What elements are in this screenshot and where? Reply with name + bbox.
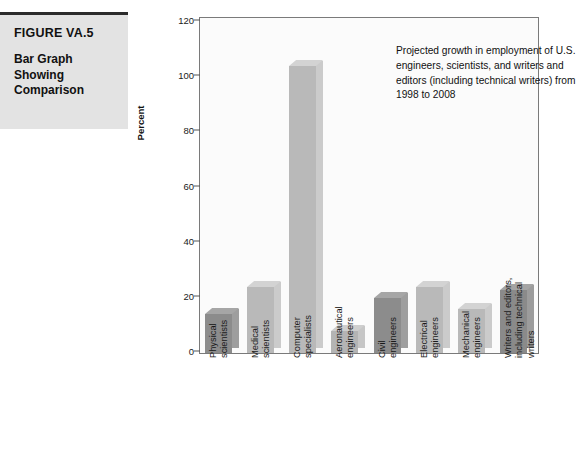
x-axis-labels: Physical scientistsMedical scientistsCom…	[199, 358, 539, 455]
bar-chart: Percent 020406080100120 Projected growth…	[133, 8, 553, 453]
bar-side-face	[401, 293, 408, 348]
bar-side-face	[316, 61, 323, 348]
x-axis-label: Civil engineers	[377, 317, 400, 358]
x-axis-label: Aeronautical engineers	[334, 306, 357, 358]
y-axis-title: Percent	[135, 88, 146, 158]
y-tick-label: 120	[178, 15, 194, 26]
bar-side-face	[485, 304, 492, 348]
y-tick-label: 0	[189, 346, 194, 357]
bars-layer	[200, 18, 538, 353]
y-tick-label: 100	[178, 70, 194, 81]
x-axis-label: Mechanical engineers	[461, 311, 484, 358]
x-axis-label: Electrical engineers	[419, 317, 442, 358]
figure-number: FIGURE VA.5	[14, 27, 118, 41]
bar-side-face	[274, 282, 281, 348]
y-tick-label: 60	[183, 180, 194, 191]
bar-side-face	[232, 309, 239, 348]
plot-area: 020406080100120 Projected growth in empl…	[199, 17, 539, 354]
y-tick-label: 80	[183, 125, 194, 136]
figure-caption-block: FIGURE VA.5 Bar Graph Showing Comparison	[0, 12, 128, 129]
bar	[289, 60, 316, 353]
bar-front-face	[289, 66, 316, 353]
x-axis-label: Writers and editors, including technical…	[503, 278, 537, 358]
x-axis-label: Computer specialists	[292, 315, 315, 358]
bar-side-face	[443, 282, 450, 348]
y-tick-label: 40	[183, 235, 194, 246]
x-axis-label: Medical scientists	[250, 320, 273, 358]
y-tick-label: 20	[183, 290, 194, 301]
x-axis-label: Physical scientists	[208, 320, 231, 358]
figure-title: Bar Graph Showing Comparison	[14, 52, 118, 99]
